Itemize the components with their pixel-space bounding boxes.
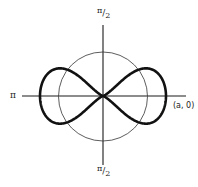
label-pi-over-2-top: π/2	[97, 9, 110, 18]
label-a-zero: (a, 0)	[173, 102, 194, 110]
label-pi-over-2-bottom: π/2	[97, 167, 110, 176]
label-top-denominator: 2	[105, 11, 110, 20]
label-bottom-numerator: π	[97, 164, 102, 173]
label-top-numerator: π	[97, 6, 102, 15]
label-bottom-denominator: 2	[105, 169, 110, 178]
label-pi: π	[10, 91, 16, 100]
polar-diagram	[0, 0, 198, 187]
